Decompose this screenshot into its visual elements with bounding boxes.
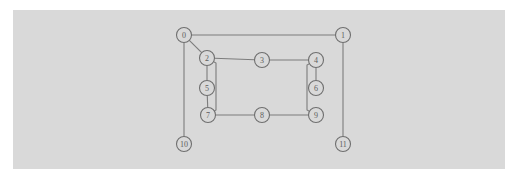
graph-node-label-0: 0 <box>182 31 186 40</box>
graph-node-label-6: 6 <box>314 84 318 93</box>
graph-node-2[interactable]: 2 <box>200 51 215 66</box>
graph-node-label-7: 7 <box>206 111 210 120</box>
graph-node-7[interactable]: 7 <box>201 108 216 123</box>
graph-node-10[interactable]: 10 <box>177 137 192 152</box>
graph-node-6[interactable]: 6 <box>309 81 324 96</box>
graph-edge-0-2 <box>189 40 201 52</box>
graph-diagram: 01234567891011 <box>0 0 523 183</box>
graph-node-label-10: 10 <box>180 140 188 149</box>
graph-node-label-11: 11 <box>339 140 347 149</box>
graph-node-label-1: 1 <box>341 31 345 40</box>
graph-node-3[interactable]: 3 <box>255 53 270 68</box>
graph-node-5[interactable]: 5 <box>200 81 215 96</box>
graph-node-9[interactable]: 9 <box>309 108 324 123</box>
graph-node-label-2: 2 <box>205 54 209 63</box>
figure-canvas: 01234567891011 <box>0 0 523 183</box>
graph-node-label-8: 8 <box>260 111 264 120</box>
graph-node-0[interactable]: 0 <box>177 28 192 43</box>
graph-node-label-9: 9 <box>314 111 318 120</box>
graph-node-1[interactable]: 1 <box>336 28 351 43</box>
graph-node-4[interactable]: 4 <box>309 53 324 68</box>
nodes-layer: 01234567891011 <box>177 28 351 152</box>
graph-node-label-5: 5 <box>205 84 209 93</box>
graph-node-label-3: 3 <box>260 56 264 65</box>
graph-node-11[interactable]: 11 <box>336 137 351 152</box>
graph-edge-2-3 <box>214 58 254 59</box>
graph-node-8[interactable]: 8 <box>255 108 270 123</box>
graph-node-label-4: 4 <box>314 56 318 65</box>
